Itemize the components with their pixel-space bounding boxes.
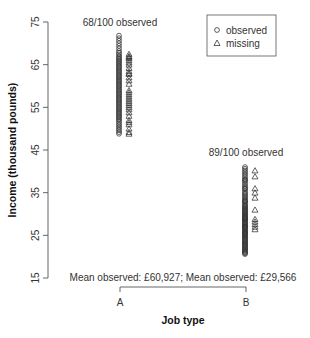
x-tick-label-a: A — [117, 297, 124, 308]
y-ticks: 15253545556575 — [30, 16, 48, 284]
y-tick-label: 55 — [30, 101, 41, 113]
y-tick-label: 35 — [30, 187, 41, 199]
missing-point — [252, 174, 258, 179]
y-axis: 15253545556575 Income (thousand pounds) — [6, 16, 48, 284]
annotation-b-count: 89/100 observed — [209, 147, 284, 158]
missing-point — [252, 195, 258, 200]
legend-box — [207, 15, 276, 56]
legend-label-missing: missing — [226, 38, 260, 49]
legend: observed missing — [207, 15, 276, 56]
x-tick-label-b: B — [243, 297, 250, 308]
y-tick-label: 65 — [30, 59, 41, 71]
missing-point — [252, 207, 258, 212]
legend-label-observed: observed — [226, 25, 267, 36]
y-axis-title: Income (thousand pounds) — [6, 83, 18, 218]
data-points — [117, 33, 258, 256]
income-by-job-type-chart: 15253545556575 Income (thousand pounds) … — [0, 0, 310, 338]
missing-point — [252, 168, 258, 173]
y-tick-label: 45 — [30, 144, 41, 156]
x-axis-title: Job type — [161, 314, 204, 326]
x-axis: A B Job type — [117, 287, 250, 326]
y-tick-label: 75 — [30, 16, 41, 28]
annotation-means: Mean observed: £60,927; Mean observed: £… — [70, 272, 297, 283]
y-tick-label: 15 — [30, 272, 41, 284]
y-tick-label: 25 — [30, 229, 41, 241]
annotation-a-count: 68/100 observed — [83, 17, 158, 28]
